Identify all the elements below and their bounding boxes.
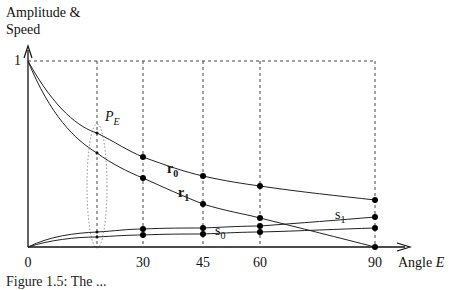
x-axis-label: Angle E [398,256,444,270]
s0-label: s0 [215,224,225,238]
pe-point-s0 [96,236,99,239]
x-tick-45: 45 [196,256,210,270]
x-tick-60: 60 [253,256,267,270]
curve-r1 [28,61,375,247]
figure-caption: Figure 1.5: The ... [6,274,106,290]
x-axis-label-text: Angle [398,255,432,270]
curve-r0 [28,61,375,200]
y-axis-label-line1: Amplitude & [6,6,80,20]
s1-label: s1 [335,208,345,222]
r0-label: r0 [167,162,178,176]
pe-point-s1 [96,231,99,234]
s0-label-sub: 0 [220,230,225,241]
pe-label-base: P [105,109,114,124]
pe-label-sub: E [114,116,120,127]
x-tick-90: 90 [368,256,382,270]
pe-point-r0 [96,132,99,135]
r0-label-sub: 0 [173,168,178,179]
pe-label: PE [105,110,120,124]
r1-label: r1 [178,186,189,200]
x-tick-0: 0 [25,256,32,270]
y-axis-label-line2: Speed [6,23,40,37]
r1-label-sub: 1 [184,192,189,203]
pe-point-r1 [96,152,99,155]
s1-label-sub: 1 [340,214,345,225]
curve-s0 [28,228,375,247]
y-tick-top: 1 [14,54,21,68]
x-axis-variable: E [436,255,445,270]
x-tick-30: 30 [136,256,150,270]
